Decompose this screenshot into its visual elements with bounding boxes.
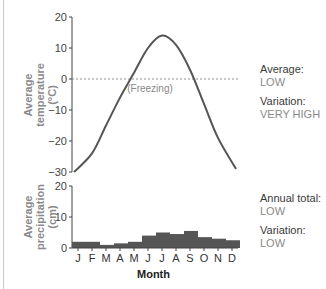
average-label: Average: bbox=[260, 63, 320, 76]
svg-text:D: D bbox=[228, 252, 236, 264]
svg-text:(Freezing): (Freezing) bbox=[127, 83, 173, 94]
svg-text:O: O bbox=[200, 252, 209, 264]
precipitation-summary: Annual total: LOW Variation: LOW bbox=[260, 192, 321, 250]
svg-text:A: A bbox=[116, 252, 124, 264]
temp-variation-value: VERY HIGH bbox=[260, 108, 320, 121]
svg-text:N: N bbox=[214, 252, 222, 264]
precip-variation-label: Variation: bbox=[260, 224, 321, 237]
svg-text:S: S bbox=[186, 252, 193, 264]
annual-total-value: LOW bbox=[260, 205, 321, 218]
svg-text:J: J bbox=[75, 252, 81, 264]
svg-text:J: J bbox=[145, 252, 151, 264]
temperature-axis-label: Average temperature (°C) bbox=[22, 50, 60, 140]
temperature-summary: Average: LOW Variation: VERY HIGH bbox=[260, 63, 320, 121]
temp-variation-label: Variation: bbox=[260, 95, 320, 108]
svg-text:0: 0 bbox=[61, 242, 67, 254]
svg-text:M: M bbox=[101, 252, 110, 264]
svg-text:A: A bbox=[172, 252, 180, 264]
svg-text:M: M bbox=[129, 252, 138, 264]
x-axis-title: Month bbox=[137, 268, 170, 280]
svg-text:0: 0 bbox=[61, 73, 67, 85]
precipitation-axis-label: Average precipitation (cm) bbox=[22, 172, 60, 262]
svg-text:20: 20 bbox=[55, 11, 67, 23]
svg-text:J: J bbox=[159, 252, 165, 264]
svg-text:F: F bbox=[89, 252, 96, 264]
annual-total-label: Annual total: bbox=[260, 192, 321, 205]
precip-variation-value: LOW bbox=[260, 237, 321, 250]
average-value: LOW bbox=[260, 76, 320, 89]
